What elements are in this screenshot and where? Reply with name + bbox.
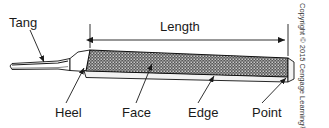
leader-tang	[30, 30, 44, 62]
label-edge: Edge	[188, 106, 218, 119]
file-tang	[10, 59, 70, 71]
file-parts-diagram: Tang Length Heel Face Edge Point Copyrig…	[0, 0, 329, 128]
copyright-notice: Copyright © 2015 Cengage Learning®	[299, 3, 307, 123]
label-heel: Heel	[55, 106, 82, 119]
leader-heel	[66, 68, 84, 103]
label-length: Length	[160, 20, 200, 33]
label-face: Face	[122, 106, 151, 119]
label-point: Point	[252, 106, 282, 119]
label-tang: Tang	[9, 16, 37, 29]
file-point	[288, 58, 294, 82]
